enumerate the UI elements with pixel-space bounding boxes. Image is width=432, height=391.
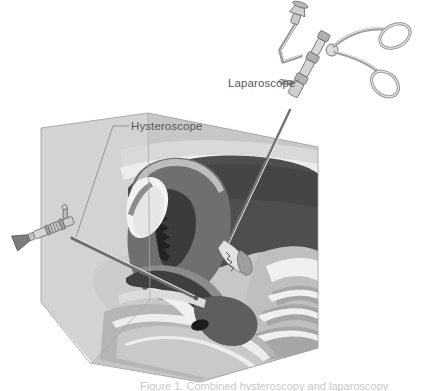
hysteroscope-distal-tip bbox=[194, 296, 199, 301]
figure-caption: Figure 1. Combined hysteroscopy and lapa… bbox=[140, 382, 388, 391]
anatomy-body-block bbox=[41, 113, 320, 382]
illustration-figure: Hysteroscope Laparoscope Figure 1. Combi… bbox=[0, 0, 432, 391]
caption-clip-region: Figure 1. Combined hysteroscopy and lapa… bbox=[0, 382, 432, 391]
label-laparoscope: Laparoscope bbox=[228, 77, 296, 89]
laparoscope-ring-handles bbox=[326, 19, 414, 102]
medical-illustration-svg bbox=[0, 0, 432, 391]
laparoscope-eyepiece-funnel bbox=[287, 0, 309, 26]
label-hysteroscope: Hysteroscope bbox=[131, 120, 203, 132]
hysteroscope-eyepiece bbox=[12, 230, 33, 251]
